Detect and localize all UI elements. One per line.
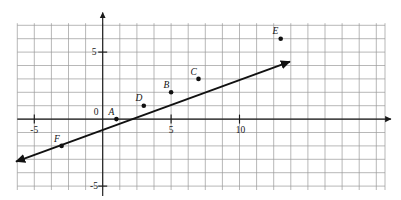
data-point-d — [142, 103, 147, 108]
point-label-e: E — [272, 26, 279, 36]
graph-canvas: -5 5 10 5 -5 0 A D B C E F — [0, 0, 401, 200]
point-label-d: D — [135, 93, 143, 103]
grid-lines — [17, 23, 385, 190]
point-label-c: C — [191, 67, 198, 77]
data-point-a — [114, 117, 119, 122]
x-axis-label-minus-5: -5 — [30, 125, 38, 135]
coordinate-plane-figure: -5 5 10 5 -5 0 A D B C E F — [0, 0, 401, 200]
data-point-c — [196, 77, 201, 82]
plotted-line — [16, 62, 290, 162]
axes — [17, 13, 391, 197]
data-point-f — [59, 144, 64, 149]
point-label-b: B — [163, 80, 169, 90]
line-graph — [16, 62, 290, 162]
data-point-e — [278, 36, 283, 41]
data-point-b — [169, 90, 174, 95]
y-axis-label-5: 5 — [92, 47, 97, 57]
x-axis-label-10: 10 — [236, 125, 246, 135]
y-axis-label-minus-5: -5 — [90, 181, 98, 191]
x-axis-label-5: 5 — [169, 125, 174, 135]
origin-label: 0 — [94, 107, 99, 117]
point-label-a: A — [108, 107, 115, 117]
point-label-f: F — [53, 134, 60, 144]
